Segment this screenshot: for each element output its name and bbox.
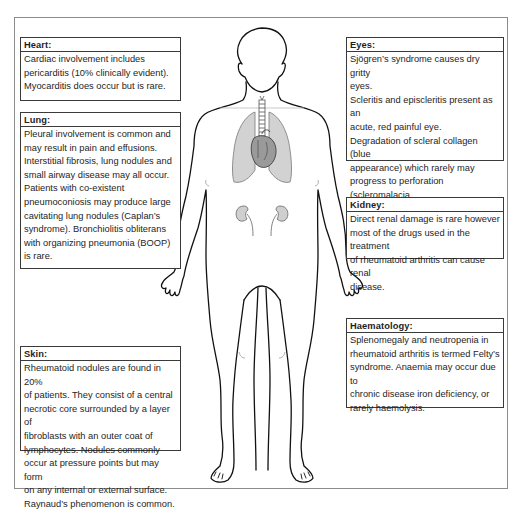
eyes-callout-title: Eyes: (347, 38, 503, 52)
head-outline (238, 28, 287, 92)
text-line: pneumoconiosis may produce large (24, 196, 177, 210)
text-line: may result in pain and effusions. (24, 142, 177, 156)
text-line: Degradation of scleral collagen (blue (350, 135, 500, 162)
text-line: pericarditis (10% clinically evident). (24, 67, 177, 81)
toes-right (301, 472, 310, 479)
heart-callout-body: Cardiac involvement includes pericarditi… (21, 52, 180, 96)
text-line: lymphocytes. Nodules commonly (24, 444, 177, 458)
haematology-callout-body: Splenomegaly and neutropenia in rheumato… (347, 333, 503, 418)
text-line: small airway disease may all occur. (24, 169, 177, 183)
kidneys-icon (236, 206, 288, 236)
lung-callout-title: Lung: (21, 113, 180, 127)
text-line: necrotic core surrounded by a layer of (24, 403, 177, 430)
text-line: Raynaud’s phenomenon is common. (24, 498, 177, 512)
text-line: eyes. (350, 80, 500, 94)
text-line: appearance) which rarely may (350, 162, 500, 176)
text-line: of rheumatoid arthritis can cause renal (350, 254, 500, 281)
text-line: Rheumatoid nodules are found in 20% (24, 362, 177, 389)
text-line: Scleritis and episcleritis present as an (350, 94, 500, 121)
skin-callout-title: Skin: (21, 347, 180, 361)
skin-callout-body: Rheumatoid nodules are found in 20% of p… (21, 361, 180, 513)
text-line: Interstitial fibrosis, lung nodules and (24, 155, 177, 169)
text-line: occur at pressure points but may form (24, 457, 177, 484)
haematology-callout: Haematology: Splenomegaly and neutropeni… (346, 318, 504, 408)
kidney-callout: Kidney: Direct renal damage is rare howe… (346, 197, 504, 259)
text-line: Direct renal damage is rare however (350, 213, 500, 227)
heart-callout: Heart: Cardiac involvement includes peri… (20, 37, 181, 101)
text-line: Patients with co-existent (24, 182, 177, 196)
toes-left (214, 472, 223, 479)
haematology-callout-title: Haematology: (347, 319, 503, 333)
eyes-callout-body: Sjögren’s syndrome causes dry gritty eye… (347, 52, 503, 218)
heart-callout-title: Heart: (21, 38, 180, 52)
text-line: most of the drugs used in the treatment (350, 227, 500, 254)
text-line: Pleural involvement is common and (24, 128, 177, 142)
text-line: rheumatoid arthritis is termed Felty’s (350, 348, 500, 362)
kidney-callout-body: Direct renal damage is rare however most… (347, 212, 503, 297)
text-line: is rare. (24, 250, 177, 264)
text-line: acute, red painful eye. (350, 121, 500, 135)
text-line: rarely haemolysis. (350, 402, 500, 416)
lung-callout-body: Pleural involvement is common and may re… (21, 127, 180, 266)
eyes-callout: Eyes: Sjögren’s syndrome causes dry grit… (346, 37, 504, 161)
text-line: Sjögren’s syndrome causes dry gritty (350, 53, 500, 80)
crotch-outline (244, 286, 280, 300)
inner-leg-left (254, 288, 258, 470)
text-line: with organizing pneumonia (BOOP) (24, 237, 177, 251)
text-line: cavitating lung nodules (Caplan’s (24, 210, 177, 224)
text-line: chronic disease iron deficiency, or (350, 388, 500, 402)
lung-callout: Lung: Pleural involvement is common and … (20, 112, 181, 269)
text-line: fibroblasts with an outer coat of (24, 430, 177, 444)
text-line: on any internal or external surface. (24, 484, 177, 498)
text-line: syndrome). Bronchiolitis obliterans (24, 223, 177, 237)
skin-callout: Skin: Rheumatoid nodules are found in 20… (20, 346, 181, 451)
text-line: Cardiac involvement includes (24, 53, 177, 67)
kidney-callout-title: Kidney: (347, 198, 503, 212)
text-line: of patients. They consist of a central (24, 389, 177, 403)
text-line: syndrome. Anaemia may occur due to (350, 361, 500, 388)
text-line: Myocarditis does occur but is rare. (24, 80, 177, 94)
text-line: disease. (350, 281, 500, 295)
text-line: Splenomegaly and neutropenia in (350, 334, 500, 348)
inner-leg-right (266, 288, 270, 470)
